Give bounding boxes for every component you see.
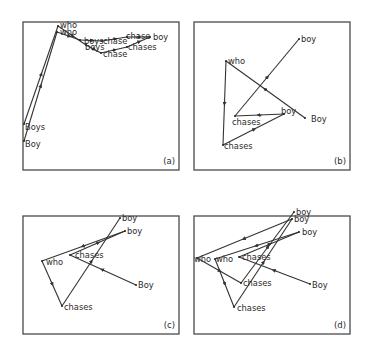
panel-label: (a) — [163, 156, 175, 166]
state-point — [225, 60, 227, 62]
panel-c: boyboychaseswhoBoychases(c) — [23, 213, 179, 334]
panel-label: (d) — [334, 320, 346, 330]
direction-arrow-icon — [265, 89, 267, 91]
word-label: chases — [224, 141, 253, 151]
panel-a: whowhoboyschasechaseboyboyschasechasesBo… — [23, 20, 179, 170]
word-label: chases — [237, 303, 266, 313]
word-label: boy — [153, 32, 168, 42]
state-point — [135, 284, 137, 286]
word-label: chases — [64, 302, 93, 312]
direction-arrow-icon — [244, 238, 247, 239]
direction-arrow-icon — [262, 262, 264, 265]
word-label: chase — [126, 31, 150, 41]
state-point — [298, 231, 300, 233]
figure-canvas: whowhoboyschasechaseboyboyschasechasesBo… — [0, 0, 370, 356]
panel-d: boyboyboywhowhochaseschasesBoychases(d) — [194, 207, 350, 334]
word-label: boy — [301, 34, 316, 44]
panel-b: boywhoboyBoychaseschases(b) — [194, 22, 350, 170]
word-label: boy — [281, 106, 296, 116]
state-point — [298, 38, 300, 40]
word-label: who — [46, 257, 63, 267]
direction-arrow-icon — [256, 245, 259, 246]
state-point — [240, 282, 242, 284]
direction-arrow-icon — [51, 282, 52, 285]
word-label: who — [228, 56, 245, 66]
direction-arrow-icon — [102, 270, 105, 271]
panel-label: (c) — [164, 320, 175, 330]
word-label: Boy — [25, 139, 41, 149]
word-label: chases — [242, 252, 271, 262]
direction-arrow-icon — [274, 270, 277, 271]
word-label: boy — [294, 214, 309, 224]
state-point — [100, 52, 102, 54]
word-label: Boy — [311, 114, 327, 124]
panel-label: (b) — [334, 156, 346, 166]
direction-arrow-icon — [90, 261, 92, 264]
direction-arrow-icon — [40, 86, 41, 89]
panel-frame — [194, 22, 350, 170]
word-label: who — [194, 254, 211, 264]
word-label: Boy — [138, 280, 154, 290]
state-point — [61, 305, 63, 307]
word-label: Boys — [25, 122, 45, 132]
state-point — [69, 254, 71, 256]
state-point — [119, 217, 121, 219]
word-label: Boy — [312, 280, 328, 290]
state-point — [149, 36, 151, 38]
direction-arrow-icon — [40, 74, 41, 77]
word-label: chase — [103, 49, 127, 59]
state-point — [293, 211, 295, 213]
state-point — [233, 306, 235, 308]
word-label: boy — [122, 213, 137, 223]
word-label: boy — [127, 226, 142, 236]
state-point — [309, 283, 311, 285]
word-label: chases — [75, 250, 104, 260]
state-point — [124, 230, 126, 232]
direction-arrow-icon — [252, 129, 255, 130]
word-label: chases — [128, 42, 157, 52]
word-label: boy — [302, 227, 317, 237]
state-point — [238, 256, 240, 258]
state-point — [56, 31, 58, 33]
panel-frame — [23, 216, 179, 334]
direction-arrow-icon — [96, 243, 99, 244]
panel-frame — [194, 216, 350, 334]
word-label: chases — [232, 117, 261, 127]
direction-arrow-icon — [83, 245, 86, 246]
state-point — [79, 39, 81, 41]
state-point — [304, 117, 306, 119]
word-label: who — [60, 27, 77, 37]
state-point — [41, 260, 43, 262]
state-point — [57, 25, 59, 27]
word-label: boys — [85, 42, 105, 52]
word-label: chase — [103, 36, 127, 46]
word-label: who — [216, 254, 233, 264]
word-label: chases — [243, 278, 272, 288]
direction-arrow-icon — [224, 281, 225, 284]
state-point — [291, 218, 293, 220]
